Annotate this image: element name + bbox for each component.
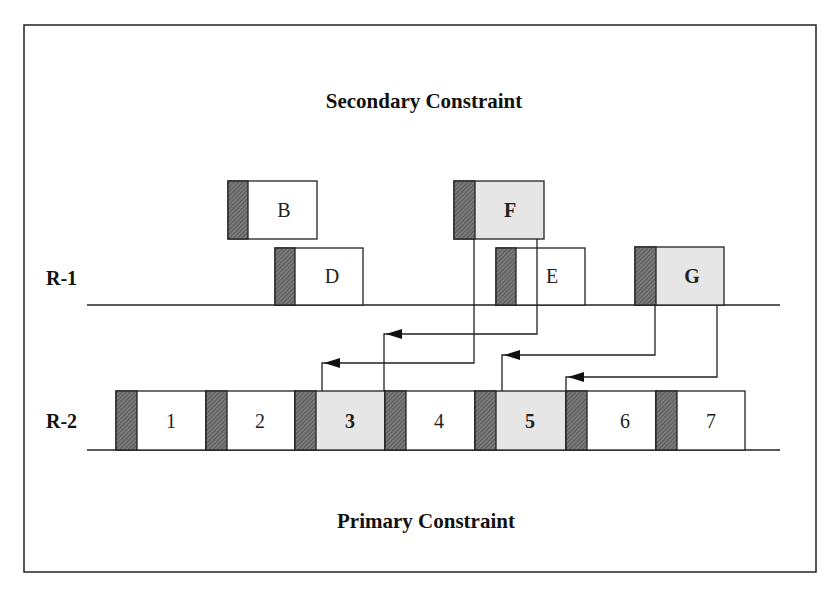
primary-block-5-label: 5 xyxy=(525,410,535,432)
row-label-r1: R-1 xyxy=(46,267,77,289)
primary-block-7: 7 xyxy=(656,391,745,450)
box-d: D xyxy=(275,248,363,305)
primary-block-3: 3 xyxy=(295,391,385,450)
primary-block-6: 6 xyxy=(566,391,656,450)
constraint-diagram: Secondary Constraint Primary Constraint … xyxy=(0,0,838,602)
primary-block-2-label: 2 xyxy=(255,410,265,432)
primary-block-4: 4 xyxy=(385,391,475,450)
primary-block-4-label: 4 xyxy=(434,410,444,432)
row-label-r2: R-2 xyxy=(46,410,77,432)
primary-constraint-title: Primary Constraint xyxy=(337,509,515,533)
box-b-label: B xyxy=(277,199,290,221)
primary-block-7-label: 7 xyxy=(706,410,716,432)
secondary-constraint-title: Secondary Constraint xyxy=(326,89,523,113)
box-f-label: F xyxy=(504,199,516,221)
box-e: E xyxy=(496,248,585,305)
primary-block-1-label: 1 xyxy=(166,410,176,432)
box-e-label: E xyxy=(546,265,558,287)
primary-block-3-label: 3 xyxy=(345,410,355,432)
primary-block-6-label: 6 xyxy=(620,410,630,432)
box-b: B xyxy=(228,181,317,239)
box-g-label: G xyxy=(684,265,700,287)
box-f: F xyxy=(454,181,544,239)
box-d-label: D xyxy=(325,265,339,287)
primary-block-1: 1 xyxy=(116,391,206,450)
primary-block-2: 2 xyxy=(206,391,295,450)
primary-block-5: 5 xyxy=(475,391,566,450)
box-g: G xyxy=(635,247,724,305)
